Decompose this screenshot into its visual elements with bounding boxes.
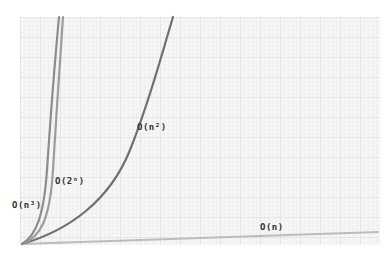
complexity-chart (0, 0, 390, 257)
label-exponential: O(2ⁿ) (55, 176, 85, 186)
label-linear: O(n) (260, 222, 284, 232)
label-quadratic: O(n²) (137, 122, 167, 132)
plot-grid (20, 17, 380, 245)
label-cubic: O(n³) (12, 200, 42, 210)
